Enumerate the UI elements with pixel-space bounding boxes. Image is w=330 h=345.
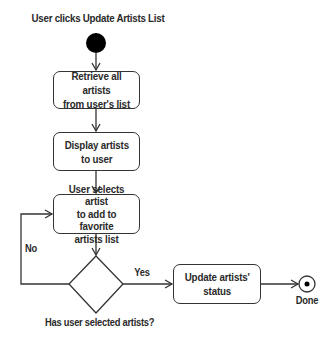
yes-label: Yes	[134, 266, 149, 278]
no-label: No	[25, 242, 37, 254]
end-node-dot	[305, 282, 310, 287]
start-node	[86, 33, 106, 53]
activity-update: Update artists' status	[173, 264, 261, 304]
activity-retrieve: Retrieve all artists from user's list	[53, 71, 140, 109]
diagram-canvas	[0, 0, 330, 345]
activity-display: Display artists to user	[53, 132, 140, 171]
start-label: User clicks Update Artists List	[30, 12, 166, 24]
activity-retrieve-label: Retrieve all artists from user's list	[60, 69, 132, 111]
decision-label: Has user selected artists?	[45, 316, 147, 328]
activity-select-label: User selects artist to add to favorite a…	[60, 183, 132, 246]
decision-diamond	[69, 256, 123, 313]
activity-update-label: Update artists' status	[185, 270, 250, 298]
end-label: Done	[294, 294, 320, 306]
activity-select: User selects artist to add to favorite a…	[53, 194, 140, 234]
activity-display-label: Display artists to user	[64, 138, 128, 166]
